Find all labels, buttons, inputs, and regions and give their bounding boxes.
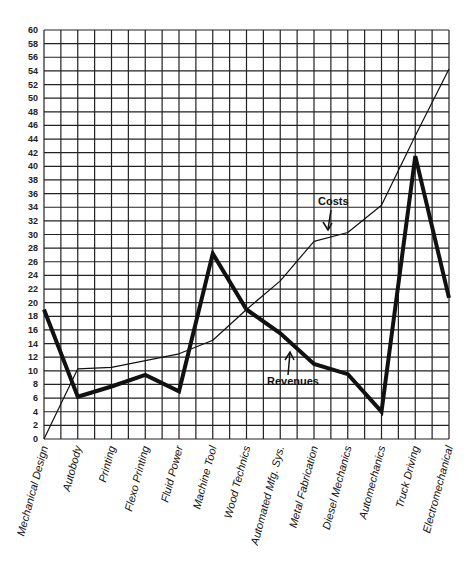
x-tick-label: Fluid Power xyxy=(158,443,185,503)
y-tick-label: 26 xyxy=(28,257,38,267)
y-tick-label: 28 xyxy=(28,243,38,253)
y-tick-label: 38 xyxy=(28,175,38,185)
y-tick-label: 0 xyxy=(33,434,38,444)
x-tick-label: Mechanical Design xyxy=(14,444,50,537)
y-tick-label: 46 xyxy=(28,120,38,130)
x-tick-label: Automated Mfg. Sys. xyxy=(248,444,286,547)
revenues-arrow-icon xyxy=(285,352,294,375)
x-tick-label: Metal Fabrication xyxy=(287,444,320,529)
x-tick-label: Automechanics xyxy=(356,444,387,521)
y-tick-label: 32 xyxy=(28,216,38,226)
revenues-label: Revenues xyxy=(267,375,319,387)
costs-label: Costs xyxy=(318,195,349,207)
x-tick-label: Flexo Printing xyxy=(122,444,151,513)
y-tick-label: 8 xyxy=(33,379,38,389)
y-tick-label: 48 xyxy=(28,107,38,117)
y-tick-label: 4 xyxy=(33,407,38,417)
x-tick-label: Autobody xyxy=(60,443,84,493)
costs-annotation: Costs xyxy=(318,195,349,230)
line-chart: 0246810121416182022242628303234363840424… xyxy=(0,0,475,572)
y-tick-label: 16 xyxy=(28,325,38,335)
x-tick-label: Truck Driving xyxy=(393,444,421,510)
y-tick-label: 52 xyxy=(28,80,38,90)
y-tick-label: 36 xyxy=(28,189,38,199)
y-tick-label: 42 xyxy=(28,148,38,158)
y-axis: 0246810121416182022242628303234363840424… xyxy=(28,25,38,444)
y-tick-label: 22 xyxy=(28,284,38,294)
x-tick-label: Wood Technics xyxy=(221,444,252,520)
y-tick-label: 60 xyxy=(28,25,38,35)
y-tick-label: 50 xyxy=(28,93,38,103)
y-tick-label: 14 xyxy=(28,339,38,349)
y-tick-label: 34 xyxy=(28,202,38,212)
x-tick-label: Diesel Mechanics xyxy=(320,444,354,531)
y-tick-label: 18 xyxy=(28,311,38,321)
y-tick-label: 58 xyxy=(28,39,38,49)
y-tick-label: 56 xyxy=(28,52,38,62)
y-tick-label: 54 xyxy=(28,66,38,76)
chart-grid xyxy=(44,30,449,439)
x-tick-label: Electromechanical xyxy=(420,444,455,534)
y-tick-label: 44 xyxy=(28,134,38,144)
y-tick-label: 6 xyxy=(33,393,38,403)
x-tick-label: Machine Tool xyxy=(190,444,219,510)
y-tick-label: 12 xyxy=(28,352,38,362)
y-tick-label: 20 xyxy=(28,298,38,308)
y-tick-label: 40 xyxy=(28,161,38,171)
y-tick-label: 24 xyxy=(28,270,38,280)
y-tick-label: 2 xyxy=(33,420,38,430)
y-tick-label: 30 xyxy=(28,230,38,240)
x-tick-label: Printing xyxy=(96,444,117,484)
x-axis: Mechanical DesignAutobodyPrintingFlexo P… xyxy=(14,443,455,547)
y-tick-label: 10 xyxy=(28,366,38,376)
